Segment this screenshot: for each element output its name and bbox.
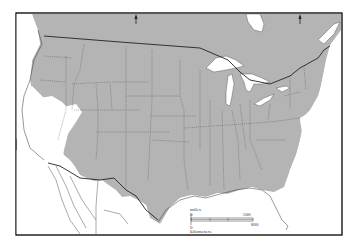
scale-km-max: 800 bbox=[251, 222, 259, 227]
scale-km-label: kilometers bbox=[190, 229, 211, 234]
range-map: miles 0 500 800 0 kilometers bbox=[0, 0, 359, 247]
scale-miles-max: 500 bbox=[243, 212, 251, 217]
